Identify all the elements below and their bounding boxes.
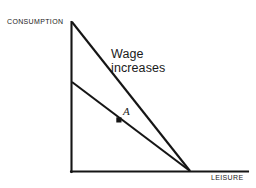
point-a-marker xyxy=(116,117,121,122)
x-axis-label: LEISURE xyxy=(211,174,243,181)
budget-constraint-figure: CONSUMPTION LEISURE Wage increases A xyxy=(0,0,256,188)
point-a-label: A xyxy=(123,106,130,117)
y-axis-label: CONSUMPTION xyxy=(7,18,63,25)
wage-increases-annotation: Wage increases xyxy=(111,48,165,75)
diagram-canvas xyxy=(0,0,256,188)
